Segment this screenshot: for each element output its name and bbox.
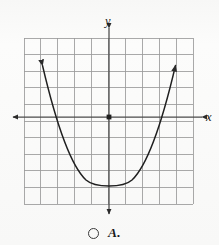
y-axis-label: y [103,14,111,28]
question-figure-page: y x A. [0,0,219,245]
origin-dot [107,115,112,120]
x-axis-label: x [205,110,212,124]
answer-option-label: A. [108,226,121,240]
coordinate-graph: y x [0,0,219,245]
answer-option-row[interactable]: A. [88,222,198,244]
radio-button-option-a[interactable] [88,228,99,239]
